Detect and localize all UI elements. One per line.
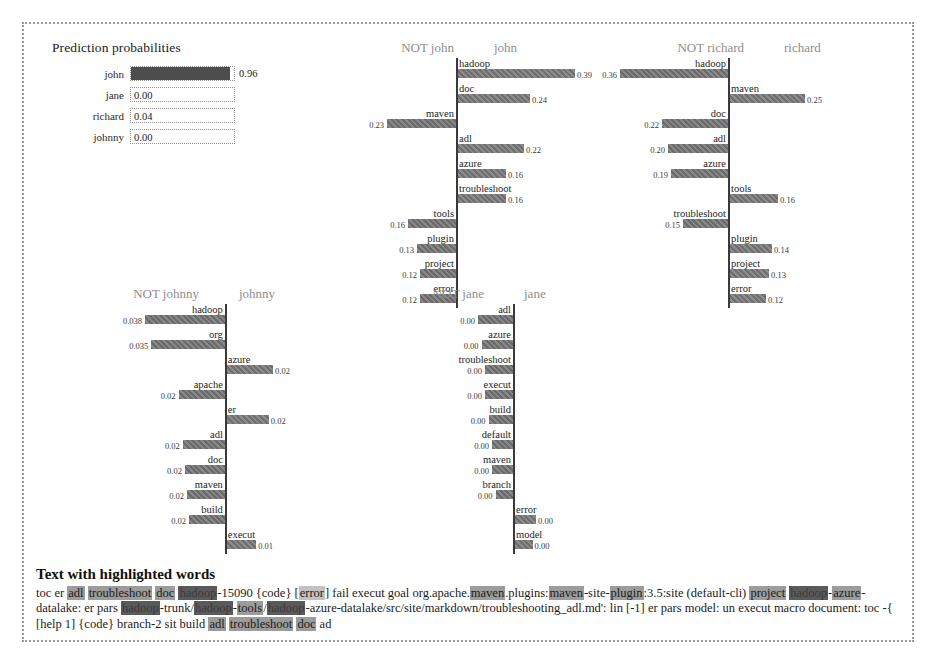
highlighted-word: doc — [296, 617, 316, 631]
feature-weight-plot: hadoop0.038org0.035azure0.02apache0.02er… — [74, 304, 364, 554]
feature-bar — [408, 219, 456, 228]
highlighted-word: error — [299, 586, 325, 600]
feature-weight-value: 0.36 — [602, 71, 617, 80]
feature-bar — [668, 144, 728, 153]
feature-weight-value: 0.16 — [780, 196, 795, 205]
feature-bar — [187, 490, 225, 499]
feature-word-label: model — [516, 530, 542, 540]
panel-header: NOT janejane — [354, 286, 654, 304]
feature-word-label: apache — [194, 380, 223, 390]
text-token: toc er — [36, 586, 67, 600]
feature-word-label: plugin — [427, 234, 454, 244]
feature-weight-value: 0.12 — [402, 271, 417, 280]
explanation-panel-johnny: NOT johnnyjohnnyhadoop0.038org0.035azure… — [74, 286, 364, 554]
feature-word-label: plugin — [731, 234, 758, 244]
prediction-bar-fill — [131, 67, 230, 80]
feature-word-label: hadoop — [695, 59, 726, 69]
feature-bar — [417, 244, 456, 253]
prediction-class-label: richard — [52, 110, 130, 122]
highlighted-word: tools — [237, 601, 263, 615]
feature-bar — [496, 490, 514, 499]
feature-weight-value: 0.15 — [665, 221, 680, 230]
feature-word-label: azure — [703, 159, 726, 169]
feature-weight-plot: hadoop0.39doc0.24maven0.23adl0.22azure0.… — [324, 58, 624, 308]
text-token: .plugins: — [505, 586, 548, 600]
feature-bar — [730, 294, 766, 303]
highlighted-word: troubleshoot — [229, 617, 294, 631]
feature-bar — [420, 269, 456, 278]
feature-bar — [227, 365, 273, 374]
text-token: -trunk/ — [160, 601, 194, 615]
feature-weight-value: 0.16 — [508, 171, 523, 180]
feature-bar — [185, 465, 225, 474]
feature-word-label: execut — [484, 380, 511, 390]
feature-weight-value: 0.038 — [123, 317, 142, 326]
feature-word-label: tools — [434, 209, 454, 219]
feature-weight-value: 0.25 — [807, 96, 822, 105]
feature-weight-value: 0.12 — [768, 296, 783, 305]
panel-negative-label: NOT richard — [677, 40, 744, 56]
feature-bar — [662, 119, 728, 128]
feature-weight-value: 0.19 — [653, 171, 668, 180]
feature-bar — [227, 540, 256, 549]
prediction-probabilities-title: Prediction probabilities — [52, 40, 292, 56]
highlighted-text-section: Text with highlighted words toc er adl t… — [36, 566, 902, 633]
explanation-panel-richard: NOT richardrichardhadoop0.36maven0.25doc… — [614, 40, 914, 308]
text-token: -azure-datalake/src/site/markdown/troubl… — [305, 601, 681, 615]
feature-bar — [730, 94, 805, 103]
feature-weight-value: 0.02 — [169, 492, 184, 501]
highlighted-word: doc — [155, 586, 175, 600]
explanation-panel-john: NOT johnjohnhadoop0.39doc0.24maven0.23ad… — [324, 40, 624, 308]
feature-weight-value: 0.00 — [474, 467, 489, 476]
feature-bar — [458, 69, 575, 78]
prediction-class-label: jane — [52, 89, 130, 101]
feature-weight-value: 0.00 — [474, 442, 489, 451]
panel-negative-label: NOT john — [401, 40, 454, 56]
feature-bar — [515, 515, 536, 524]
feature-word-label: project — [425, 259, 454, 269]
feature-bar — [189, 515, 225, 524]
prediction-class-label: john — [52, 68, 130, 80]
feature-word-label: project — [731, 259, 760, 269]
feature-bar — [515, 540, 533, 549]
highlighted-word: maven — [470, 586, 505, 600]
highlighted-word: maven — [549, 586, 584, 600]
prediction-value: 0.00 — [134, 88, 152, 103]
feature-bar — [683, 219, 728, 228]
highlighted-text-body: toc er adl troubleshoot doc hadoop-15090… — [36, 586, 902, 633]
panel-positive-label: jane — [524, 286, 546, 302]
panel-header: NOT johnjohn — [324, 40, 624, 58]
highlighted-word: adl — [208, 617, 225, 631]
prediction-probabilities-panel: Prediction probabilities john0.96jane0.0… — [52, 40, 292, 149]
prediction-row: john0.96 — [52, 65, 292, 82]
feature-bar — [492, 440, 513, 449]
prediction-probabilities-rows: john0.96jane0.00richard0.04johnny0.00 — [52, 65, 292, 145]
feature-word-label: azure — [488, 330, 511, 340]
feature-bar — [485, 365, 513, 374]
feature-word-label: build — [201, 505, 223, 515]
feature-weight-value: 0.00 — [467, 367, 482, 376]
feature-weight-plot: hadoop0.36maven0.25doc0.22adl0.20azure0.… — [614, 58, 914, 308]
feature-word-label: troubleshoot — [459, 355, 512, 365]
prediction-row: richard0.04 — [52, 107, 292, 124]
prediction-value: 0.00 — [134, 130, 152, 145]
text-token: :3.5:site (default-cli) — [644, 586, 750, 600]
feature-weight-value: 0.00 — [464, 342, 479, 351]
feature-weight-value: 0.22 — [644, 121, 659, 130]
feature-bar — [458, 169, 506, 178]
feature-weight-value: 0.01 — [258, 542, 273, 551]
feature-weight-value: 0.39 — [577, 71, 592, 80]
feature-word-label: error — [731, 284, 751, 294]
feature-weight-value: 0.16 — [508, 196, 523, 205]
feature-weight-value: 0.00 — [460, 317, 475, 326]
feature-bar — [620, 69, 728, 78]
feature-weight-value: 0.00 — [471, 417, 486, 426]
text-token: ] fail execut goal org.apache. — [325, 586, 470, 600]
prediction-row: jane0.00 — [52, 86, 292, 103]
feature-word-label: branch — [482, 480, 511, 490]
text-token: -15090 {code} [ — [217, 586, 298, 600]
feature-bar — [458, 94, 530, 103]
feature-weight-value: 0.02 — [165, 442, 180, 451]
feature-weight-value: 0.16 — [390, 221, 405, 230]
zero-axis — [225, 304, 227, 554]
